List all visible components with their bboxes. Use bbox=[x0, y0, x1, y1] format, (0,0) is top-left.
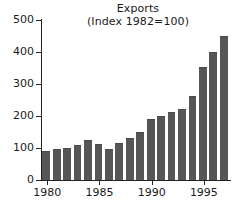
bar-1995 bbox=[199, 67, 207, 180]
bar-1997 bbox=[220, 36, 228, 180]
bar-1980 bbox=[42, 151, 50, 180]
y-tick-label-100: 100 bbox=[0, 142, 34, 153]
y-tick-label-0: 0 bbox=[0, 174, 34, 185]
y-tick-label-300: 300 bbox=[0, 78, 34, 89]
bar-1985 bbox=[95, 144, 103, 180]
bar-1994 bbox=[189, 96, 197, 180]
bar-1993 bbox=[178, 109, 186, 180]
bar-1987 bbox=[115, 143, 123, 180]
bar-1996 bbox=[209, 52, 217, 180]
bar-1983 bbox=[74, 145, 82, 180]
y-tick-label-400: 400 bbox=[0, 46, 34, 57]
bar-1981 bbox=[53, 149, 61, 180]
bar-1988 bbox=[126, 138, 134, 180]
chart-title: Exports bbox=[44, 2, 232, 15]
x-tick-1995 bbox=[204, 181, 205, 185]
x-tick-1990 bbox=[152, 181, 153, 185]
x-tick-label-1990: 1990 bbox=[135, 187, 169, 199]
bar-1991 bbox=[157, 116, 165, 180]
x-tick-label-1980: 1980 bbox=[30, 187, 64, 199]
bar-1984 bbox=[84, 140, 92, 180]
x-tick-1985 bbox=[99, 181, 100, 185]
exports-bar-chart: Exports (Index 1982=100) 010020030040050… bbox=[0, 0, 232, 208]
x-axis-line bbox=[41, 180, 231, 181]
plot-area bbox=[41, 20, 230, 180]
bar-1982 bbox=[63, 148, 71, 180]
x-tick-label-1985: 1985 bbox=[82, 187, 116, 199]
y-tick-0 bbox=[36, 180, 41, 181]
bar-1990 bbox=[147, 119, 155, 180]
bar-1992 bbox=[168, 112, 176, 180]
y-tick-label-200: 200 bbox=[0, 110, 34, 121]
bar-1989 bbox=[136, 132, 144, 180]
x-tick-label-1995: 1995 bbox=[187, 187, 221, 199]
y-tick-label-500: 500 bbox=[0, 14, 34, 25]
x-tick-1980 bbox=[47, 181, 48, 185]
bar-1986 bbox=[105, 149, 113, 180]
